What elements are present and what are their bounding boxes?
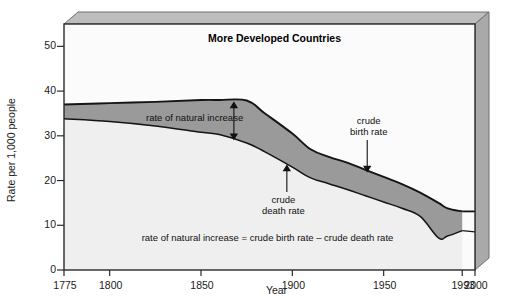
x-tick-label: 1850	[190, 279, 213, 291]
y-tick-label: 20	[20, 174, 56, 186]
y-tick-label: 30	[20, 129, 56, 141]
x-tick-label: 1950	[373, 279, 396, 291]
chart-title: More Developed Countries	[0, 32, 525, 44]
x-tick-label: 1775	[53, 279, 76, 291]
chart-figure: More Developed Countries Rate per 1,000 …	[0, 0, 525, 300]
y-tick-label: 40	[20, 84, 56, 96]
y-tick-label: 10	[20, 218, 56, 230]
x-tick-label: 1800	[99, 279, 122, 291]
x-tick-label-wrap: 1775	[48, 279, 82, 291]
x-axis-ticks	[64, 270, 475, 276]
chart-plot-area	[0, 0, 525, 300]
annotation-crude-birth-rate: crude birth rate	[350, 115, 388, 137]
annotation-crude-birth-rate-line1: crude	[350, 115, 388, 126]
annotation-crude-birth-rate-line2: birth rate	[350, 126, 388, 137]
x-tick-label: 1900	[282, 279, 305, 291]
x-tick-label-wrap: 2000	[459, 279, 493, 291]
formula-note: rate of natural increase = crude birth r…	[0, 232, 525, 243]
x-tick-label-wrap: 1950	[368, 279, 402, 291]
y-tick-label: 0	[20, 263, 56, 275]
annotation-crude-death-rate: crude death rate	[262, 194, 305, 216]
annotation-crude-death-rate-line1: crude	[262, 194, 305, 205]
annotation-crude-death-rate-line2: death rate	[262, 205, 305, 216]
y-axis-label: Rate per 1,000 people	[5, 98, 17, 202]
annotation-rate-of-natural-increase: rate of natural increase	[146, 112, 243, 123]
x-tick-label-wrap: 1800	[94, 279, 128, 291]
frame-top-bevel	[64, 12, 489, 24]
y-tick-label: 50	[20, 39, 56, 51]
x-tick-label-wrap: 1900	[276, 279, 310, 291]
x-tick-label: 2000	[464, 279, 487, 291]
x-tick-label-wrap: 1850	[185, 279, 219, 291]
